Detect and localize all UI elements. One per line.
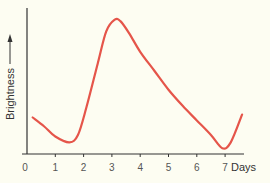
x-tick-label: 4 (137, 162, 143, 173)
arrow-up-icon (8, 34, 13, 42)
x-tick-label: 7 (222, 162, 228, 173)
x-axis-label: Days (231, 161, 257, 173)
brightness-chart: 01234567 Days Brightness (0, 0, 270, 183)
axes (22, 8, 244, 154)
x-tick-label: 2 (81, 162, 87, 173)
x-tick-label: 0 (22, 162, 28, 173)
x-tick-label: 6 (194, 162, 200, 173)
brightness-line (33, 19, 242, 149)
y-axis-title-group: Brightness (4, 68, 16, 120)
y-axis-arrow (8, 34, 13, 64)
x-tick-label: 3 (109, 162, 115, 173)
y-axis-label: Brightness (4, 68, 16, 120)
x-tick-label: 1 (53, 162, 59, 173)
x-ticks: 01234567 (22, 154, 228, 173)
x-tick-label: 5 (166, 162, 172, 173)
series (33, 19, 242, 149)
